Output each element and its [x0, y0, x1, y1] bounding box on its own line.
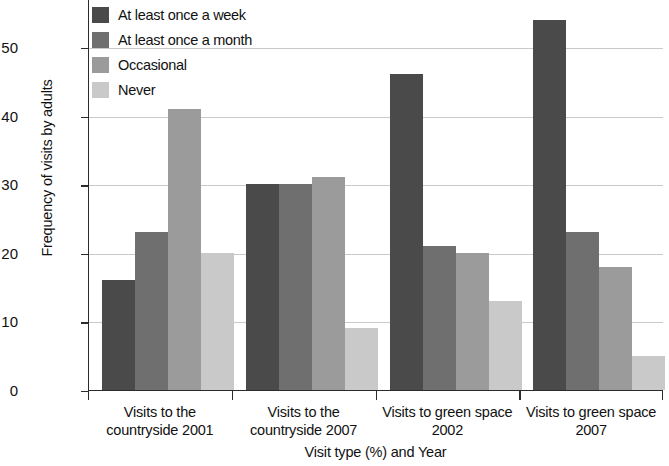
legend-swatch-icon-month: [92, 32, 109, 48]
y-tick-label-10: 10: [0, 313, 18, 330]
x-category-line-1: Visits to the: [268, 404, 340, 420]
bar[interactable]: [632, 356, 665, 390]
x-tick-mark-1: [232, 391, 233, 400]
legend-swatch-icon-never: [92, 82, 109, 98]
y-tick-label-50: 50: [0, 39, 18, 56]
bar[interactable]: [456, 253, 489, 390]
legend-item-week[interactable]: At least once a week: [92, 2, 332, 27]
x-category-line-1: Visits to green space: [382, 404, 512, 420]
bar[interactable]: [566, 232, 599, 390]
x-axis-title: Visit type (%) and Year: [88, 444, 663, 460]
legend-swatch-icon-week: [92, 7, 109, 23]
bar[interactable]: [168, 109, 201, 390]
legend-label-month: At least once a month: [118, 32, 252, 48]
x-category-label: Visits to green space2007: [507, 403, 669, 439]
bar[interactable]: [390, 74, 423, 390]
bar[interactable]: [102, 280, 135, 390]
bar[interactable]: [599, 267, 632, 390]
x-category-line-2: 2007: [507, 421, 669, 439]
bar[interactable]: [201, 253, 234, 390]
bar-group: [376, 0, 520, 390]
x-tick-mark-0: [88, 391, 89, 400]
y-axis-title: Frequency of visits by adults: [39, 3, 55, 333]
x-tick-mark-4: [662, 391, 663, 400]
bar-group: [519, 0, 663, 390]
bar[interactable]: [489, 301, 522, 390]
bar[interactable]: [246, 184, 279, 390]
legend-item-month[interactable]: At least once a month: [92, 27, 332, 52]
bar[interactable]: [423, 246, 456, 390]
legend-label-occasional: Occasional: [118, 57, 187, 73]
x-category-line-1: Visits to green space: [526, 404, 656, 420]
y-tick-label-40: 40: [0, 108, 18, 125]
bar[interactable]: [533, 20, 566, 390]
legend-item-occasional[interactable]: Occasional: [92, 52, 332, 77]
y-tick-label-20: 20: [0, 245, 18, 262]
legend-item-never[interactable]: Never: [92, 77, 332, 102]
x-tick-mark-3: [519, 391, 520, 400]
bar[interactable]: [312, 177, 345, 390]
legend-label-never: Never: [118, 82, 155, 98]
y-tick-label-0: 0: [0, 382, 18, 399]
bar[interactable]: [279, 184, 312, 390]
chart-legend: At least once a week At least once a mon…: [92, 2, 332, 102]
x-category-line-1: Visits to the: [124, 404, 196, 420]
legend-label-week: At least once a week: [118, 7, 246, 23]
bar[interactable]: [345, 328, 378, 390]
legend-swatch-icon-occasional: [92, 57, 109, 73]
x-tick-mark-2: [376, 391, 377, 400]
y-tick-label-30: 30: [0, 176, 18, 193]
bar[interactable]: [135, 232, 168, 390]
